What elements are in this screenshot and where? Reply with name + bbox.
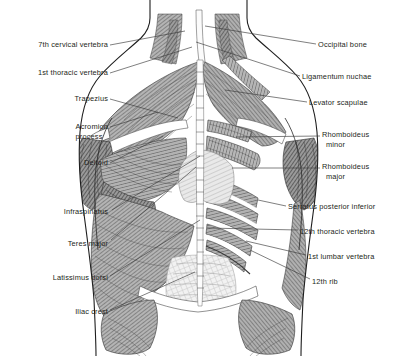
label-text: Rhomboideus: [322, 130, 369, 139]
label-serratus-posterior-inferior: Serratus posterior inferior: [288, 202, 375, 212]
label-text: Infraspinatus: [64, 207, 108, 216]
label-text: 12th rib: [312, 277, 338, 286]
label-text: 1st thoracic vertebra: [38, 68, 108, 77]
label-text: Rhomboideus: [322, 162, 369, 171]
label-1st-lumbar-vertebra: 1st lumbar vertebra: [308, 252, 374, 262]
label-text: 7th cervical vertebra: [38, 40, 108, 49]
body-musculature: [70, 0, 330, 356]
label-iliac-crest: Iliac crest: [75, 307, 108, 317]
label-occipital-bone: Occipital bone: [318, 40, 367, 50]
label-rhomboideus-minor: Rhomboideusminor: [322, 130, 369, 150]
label-levator-scapulae: Levator scapulae: [309, 98, 368, 108]
label-text: 12th thoracic vertebra: [300, 227, 375, 236]
label-text: 1st lumbar vertebra: [308, 252, 374, 261]
label-text: Occipital bone: [318, 40, 367, 49]
anatomy-figure: 7th cervical vertebra1st thoracic verteb…: [0, 0, 397, 356]
label-ligamentum-nuchae: Ligamentum nuchae: [302, 72, 372, 82]
label-infraspinatus: Infraspinatus: [64, 207, 108, 217]
label-acromion-process: Acromionprocess: [76, 122, 108, 142]
label-12th-rib: 12th rib: [312, 277, 338, 287]
label-7th-cervical-vertebra: 7th cervical vertebra: [38, 40, 108, 50]
label-text: Deltoid: [84, 158, 108, 167]
label-deltoid: Deltoid: [84, 158, 108, 168]
label-latissimus-dorsi: Latissimus dorsi: [53, 273, 108, 283]
label-trapezius: Trapezius: [74, 94, 108, 104]
spinous-process-column: [196, 60, 204, 306]
label-text-line2: major: [322, 172, 369, 182]
label-text: Serratus posterior inferior: [288, 202, 375, 211]
label-text: Iliac crest: [75, 307, 108, 316]
label-12th-thoracic-vertebra: 12th thoracic vertebra: [300, 227, 375, 237]
label-teres-major: Teres major: [68, 239, 108, 249]
label-1st-thoracic-vertebra: 1st thoracic vertebra: [38, 68, 108, 78]
label-rhomboideus-major: Rhomboideusmajor: [322, 162, 369, 182]
label-text: Teres major: [68, 239, 108, 248]
label-text: Levator scapulae: [309, 98, 368, 107]
label-text-line2: minor: [322, 140, 369, 150]
label-text: Trapezius: [74, 94, 108, 103]
label-text: Ligamentum nuchae: [302, 72, 372, 81]
label-text: Latissimus dorsi: [53, 273, 108, 282]
label-text: Acromion: [76, 122, 108, 131]
label-text-line2: process: [76, 132, 108, 142]
